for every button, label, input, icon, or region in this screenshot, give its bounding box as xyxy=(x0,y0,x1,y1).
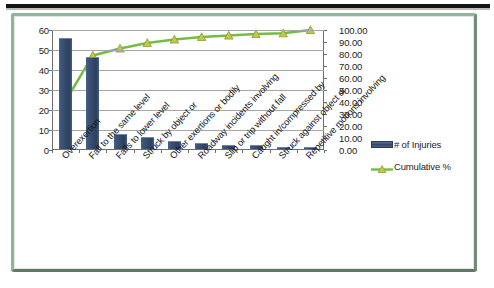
y-axis-left-labels: 0102030405060 xyxy=(23,30,49,150)
y-left-tick xyxy=(49,30,52,31)
line-marker-swatch-icon xyxy=(371,161,393,172)
y-left-tick-label: 40 xyxy=(39,65,49,76)
legend-item-cumulative[interactable]: Cumulative % xyxy=(371,155,481,177)
y-right-tick xyxy=(324,90,327,91)
y-left-tick xyxy=(49,50,52,51)
y-right-tick xyxy=(324,54,327,55)
top-rule-shadow xyxy=(6,8,490,10)
y-right-tick-label: 70.00 xyxy=(339,61,362,72)
y-right-tick xyxy=(324,126,327,127)
y-right-tick-label: 10.00 xyxy=(339,133,362,144)
y-right-tick-label: 90.00 xyxy=(339,37,362,48)
bar-swatch-icon xyxy=(371,141,393,148)
y-left-tick-label: 10 xyxy=(39,125,49,136)
gridline xyxy=(52,30,324,31)
y-right-tick xyxy=(324,30,327,31)
y-left-tick-label: 60 xyxy=(39,25,49,36)
y-left-tick-label: 50 xyxy=(39,45,49,56)
y-right-tick xyxy=(324,66,327,67)
pareto-chart: 0102030405060 0.0010.0020.0030.0040.0050… xyxy=(11,13,477,272)
y-left-tick xyxy=(49,90,52,91)
y-right-tick-label: 60.00 xyxy=(339,73,362,84)
bar-0[interactable] xyxy=(59,38,72,149)
y-right-tick xyxy=(324,78,327,79)
y-right-tick-label: 100.00 xyxy=(339,25,367,36)
y-left-tick-label: 30 xyxy=(39,85,49,96)
gridline xyxy=(52,50,324,51)
y-left-tick-label: 20 xyxy=(39,105,49,116)
y-left-tick xyxy=(49,70,52,71)
y-left-tick xyxy=(49,110,52,111)
y-right-tick xyxy=(324,42,327,43)
legend-item-injuries[interactable]: # of Injuries xyxy=(371,133,481,155)
y-right-tick-label: 80.00 xyxy=(339,49,362,60)
legend-label-injuries: # of Injuries xyxy=(394,139,441,150)
legend-label-cumulative: Cumulative % xyxy=(394,161,451,172)
y-left-tick xyxy=(49,130,52,131)
chart-legend: # of Injuries Cumulative % xyxy=(371,133,481,177)
